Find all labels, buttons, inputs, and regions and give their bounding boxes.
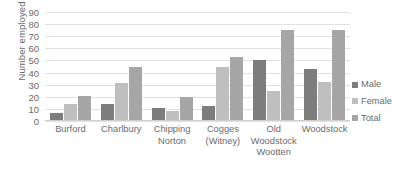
legend-label: Total (361, 114, 381, 123)
x-axis-label: Burford (45, 124, 96, 168)
bar-male[interactable] (253, 60, 266, 121)
bar-female[interactable] (318, 82, 331, 121)
legend-label: Female (361, 97, 392, 106)
y-axis-tick-label: 0 (11, 117, 39, 127)
bar-male[interactable] (152, 108, 165, 121)
x-axis-label: OldWoodstockWootten (248, 124, 299, 168)
legend-item-female[interactable]: Female (352, 97, 398, 106)
bar-group (45, 12, 96, 121)
bar-total[interactable] (332, 30, 345, 121)
bar-total[interactable] (230, 57, 243, 121)
x-axis-label: Charlbury (96, 124, 147, 168)
legend-swatch-icon (352, 115, 358, 121)
bar-group (147, 12, 198, 121)
legend-item-total[interactable]: Total (352, 114, 398, 123)
y-axis-tick-label: 20 (11, 93, 39, 103)
bar-total[interactable] (78, 96, 91, 121)
bar-male[interactable] (202, 106, 215, 121)
bar-female[interactable] (115, 83, 128, 121)
chart-legend: MaleFemaleTotal (352, 80, 398, 130)
x-axis-label: ChippingNorton (147, 124, 198, 168)
bar-female[interactable] (267, 91, 280, 121)
bar-male[interactable] (101, 104, 114, 121)
bar-group (299, 12, 350, 121)
bar-group (248, 12, 299, 121)
legend-swatch-icon (352, 98, 358, 104)
bar-male[interactable] (304, 69, 317, 121)
y-axis-tick-label: 10 (11, 105, 39, 115)
bar-total[interactable] (129, 67, 142, 122)
bar-female[interactable] (64, 104, 77, 121)
plot-area (45, 12, 350, 121)
x-axis-label: Cogges(Witney) (197, 124, 248, 168)
axis-baseline (45, 120, 350, 121)
y-axis-title: Number employed (16, 0, 30, 93)
legend-label: Male (361, 80, 381, 89)
bar-total[interactable] (281, 30, 294, 121)
legend-item-male[interactable]: Male (352, 80, 398, 89)
bar-groups (45, 12, 350, 121)
bar-group (96, 12, 147, 121)
bar-group (197, 12, 248, 121)
x-axis-label: Woodstock (299, 124, 350, 168)
bar-female[interactable] (216, 67, 229, 122)
x-axis-category-labels: BurfordCharlburyChippingNortonCogges(Wit… (45, 124, 350, 168)
bar-total[interactable] (180, 97, 193, 121)
bar-chart: Number employed 0102030405060708090 Burf… (0, 0, 398, 173)
legend-swatch-icon (352, 82, 358, 88)
gridline (45, 121, 350, 122)
